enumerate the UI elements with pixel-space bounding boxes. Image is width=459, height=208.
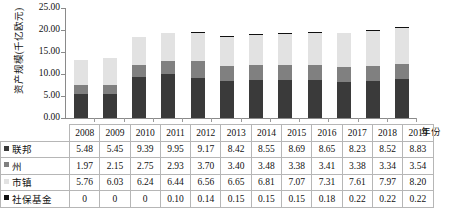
bar-segment-州 (308, 65, 322, 80)
table-value-cell: 5.45 (100, 141, 130, 158)
stacked-bar (366, 30, 380, 118)
table-year-header: 2019 (403, 125, 433, 142)
table-value-cell: 8.52 (372, 141, 402, 158)
bar-slot (300, 8, 329, 118)
bar-slot (388, 8, 417, 118)
bar-segment-联邦 (103, 94, 117, 118)
table-value-cell: 2.15 (100, 158, 130, 175)
table-year-header: 2009 (100, 125, 130, 142)
bar-segment-联邦 (191, 78, 205, 118)
x-axis-tick-mark (241, 118, 242, 122)
table-value-cell: 0.18 (312, 191, 342, 208)
bar-segment-州 (191, 61, 205, 77)
bar-segment-联邦 (249, 80, 263, 118)
table-value-cell: 2.75 (130, 158, 160, 175)
bar-segment-州 (74, 85, 88, 94)
y-axis-tick-label: 5.00 (22, 91, 60, 101)
bar-segment-市镇 (366, 31, 380, 66)
stacked-bar (395, 27, 409, 118)
bar-segment-联邦 (161, 74, 175, 118)
table-value-cell: 3.48 (251, 158, 281, 175)
table-year-header: 2008 (70, 125, 100, 142)
legend-row-header-州: 州 (1, 158, 70, 175)
table-year-header: 2015 (282, 125, 312, 142)
table-value-cell: 9.39 (130, 141, 160, 158)
table-value-cell: 0.22 (342, 191, 372, 208)
table-row: 社保基金0000.100.140.150.150.150.180.220.220… (1, 191, 434, 208)
table-value-cell: 1.97 (70, 158, 100, 175)
x-axis-tick-mark (124, 118, 125, 122)
table-value-cell: 6.65 (221, 174, 251, 191)
table-value-cell: 6.03 (100, 174, 130, 191)
legend-label: 州 (12, 162, 22, 172)
y-axis-tick-label: 0.00 (22, 113, 60, 123)
bar-slot (242, 8, 271, 118)
legend-swatch-icon (4, 195, 9, 200)
legend-label: 联邦 (12, 145, 32, 155)
plot-area: 资产规模(千亿欧元) 25.0020.0015.0010.005.000.00 … (0, 0, 459, 124)
stacked-bar (191, 32, 205, 118)
bar-segment-州 (161, 61, 175, 74)
bar-segment-州 (366, 66, 380, 81)
table-value-cell: 6.56 (191, 174, 221, 191)
bar-segment-市镇 (103, 58, 117, 85)
bar-slot (359, 8, 388, 118)
chart-data-table: 2008200920102011201220132014201520162017… (0, 124, 434, 208)
table-year-header: 2014 (251, 125, 281, 142)
table-value-cell: 5.48 (70, 141, 100, 158)
chart-root: 资产规模(千亿欧元) 25.0020.0015.0010.005.000.00 … (0, 0, 459, 208)
bar-segment-州 (337, 67, 351, 82)
table-value-cell: 3.70 (191, 158, 221, 175)
legend-swatch-icon (4, 179, 9, 184)
stacked-bar (278, 33, 292, 118)
table-row: 州1.972.152.752.933.703.403.483.383.413.3… (1, 158, 434, 175)
table-value-cell: 0.22 (372, 191, 402, 208)
legend-row-header-市镇: 市镇 (1, 174, 70, 191)
table-year-header: 2010 (130, 125, 160, 142)
x-axis-tick-mark (358, 118, 359, 122)
bar-segment-联邦 (132, 77, 146, 118)
bar-slot (329, 8, 358, 118)
bar-slot (154, 8, 183, 118)
bar-segment-联邦 (395, 79, 409, 118)
x-axis-tick-mark (211, 118, 212, 122)
legend-row-header-联邦: 联邦 (1, 141, 70, 158)
x-axis-tick-mark (182, 118, 183, 122)
table-row: 市镇5.766.036.246.446.566.656.817.077.317.… (1, 174, 434, 191)
bar-segment-州 (220, 66, 234, 81)
table-value-cell: 0 (130, 191, 160, 208)
y-axis-tick-label: 25.00 (22, 3, 60, 13)
x-axis-tick-mark (299, 118, 300, 122)
y-axis-tick-label: 10.00 (22, 69, 60, 79)
table-year-header: 2012 (191, 125, 221, 142)
table-value-cell: 0 (70, 191, 100, 208)
bar-segment-州 (132, 65, 146, 77)
stacked-bar (337, 33, 351, 118)
y-axis-tick-mark (61, 118, 65, 119)
table-value-cell: 6.44 (160, 174, 190, 191)
table-value-cell: 8.83 (403, 141, 433, 158)
bar-segment-联邦 (366, 81, 380, 118)
table-value-cell: 5.76 (70, 174, 100, 191)
bar-slot (271, 8, 300, 118)
legend-label: 社保基金 (12, 195, 52, 205)
table-value-cell: 0.14 (191, 191, 221, 208)
table-year-header: 2017 (342, 125, 372, 142)
table-value-cell: 3.34 (372, 158, 402, 175)
bar-segment-州 (278, 65, 292, 80)
bar-slot (95, 8, 124, 118)
x-axis-tick-mark (328, 118, 329, 122)
legend-row-header-社保基金: 社保基金 (1, 191, 70, 208)
table-value-cell: 7.31 (312, 174, 342, 191)
table-value-cell: 0.15 (251, 191, 281, 208)
bar-segment-市镇 (308, 33, 322, 65)
x-axis-tick-mark (94, 118, 95, 122)
table-value-cell: 7.61 (342, 174, 372, 191)
bar-segment-市镇 (132, 37, 146, 64)
bar-slot (212, 8, 241, 118)
table-corner-cell (1, 125, 70, 142)
y-axis-tick-label: 20.00 (22, 25, 60, 35)
bar-segment-州 (395, 64, 409, 80)
table-value-cell: 0.22 (403, 191, 433, 208)
table-year-header: 2013 (221, 125, 251, 142)
